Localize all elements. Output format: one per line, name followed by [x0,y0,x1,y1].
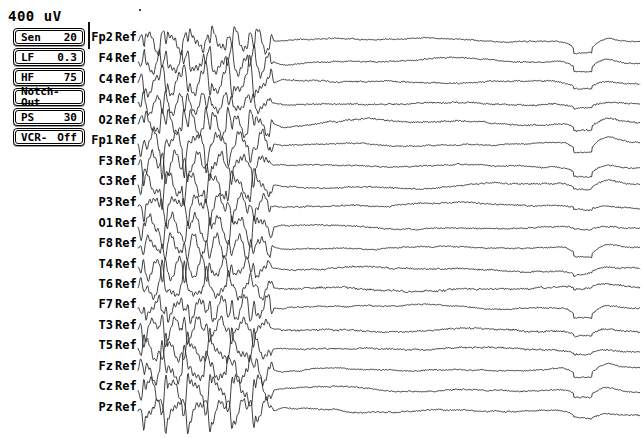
channel-reference-c3: Ref [113,174,137,188]
channel-label-p3[interactable]: P3Ref [88,195,140,209]
eeg-trace-t5-ref [138,328,640,364]
channel-label-t3[interactable]: T3Ref [88,318,140,332]
channel-site-o2: O2 [88,113,113,127]
channel-label-t6[interactable]: T6Ref [88,277,140,291]
channel-site-c3: C3 [88,174,113,188]
setting-value-vcr: Off [57,132,77,143]
eeg-trace-cz-ref [138,374,640,417]
setting-box-low-filter[interactable]: LF0.3 [13,48,85,66]
channel-site-f8: F8 [88,236,113,250]
channel-reference-t4: Ref [113,257,137,271]
settings-stack: Sen20LF0.3HF75Notch-OutPS30VCR-Off [13,28,85,148]
setting-box-high-filter[interactable]: HF75 [13,68,85,86]
channel-label-f3[interactable]: F3Ref [88,154,140,168]
setting-key-paper-speed: PS [21,112,34,123]
channel-site-t3: T3 [88,318,113,332]
channel-label-o2[interactable]: O2Ref [88,113,140,127]
channel-reference-f8: Ref [113,236,137,250]
channel-reference-f3: Ref [113,154,137,168]
channel-label-o1[interactable]: O1Ref [88,216,140,230]
eeg-trace-t6-ref [138,260,640,301]
channel-reference-f7: Ref [113,297,137,311]
channel-label-column: Fp2RefF4RefC4RefP4RefO2RefFp1RefF3RefC3R… [88,0,140,438]
channel-reference-cz: Ref [113,379,137,393]
eeg-trace-p3-ref [138,193,640,227]
setting-inner-low-filter: LF0.3 [15,50,83,64]
setting-value-paper-speed: 30 [64,112,77,123]
channel-label-fz[interactable]: FzRef [88,359,140,373]
eeg-trace-c4-ref [138,55,640,98]
channel-label-fp1[interactable]: Fp1Ref [88,133,140,147]
setting-key-vcr: VCR- [21,132,48,143]
channel-site-p3: P3 [88,195,113,209]
channel-site-fp2: Fp2 [88,30,113,44]
channel-reference-f4: Ref [113,51,137,65]
channel-label-t4[interactable]: T4Ref [88,257,140,271]
channel-reference-t3: Ref [113,318,137,332]
channel-reference-p4: Ref [113,92,137,106]
setting-box-vcr[interactable]: VCR-Off [13,128,85,146]
eeg-trace-o2-ref [138,107,640,138]
setting-inner-vcr: VCR-Off [15,130,83,144]
channel-label-f8[interactable]: F8Ref [88,236,140,250]
setting-value-low-filter: 0.3 [57,52,77,63]
eeg-trace-fz-ref [138,340,640,385]
channel-label-f4[interactable]: F4Ref [88,51,140,65]
eeg-display-screen: 400 uV Sen20LF0.3HF75Notch-OutPS30VCR-Of… [0,0,642,438]
eeg-trace-t3-ref [138,315,640,348]
setting-inner-notch-filter: Notch-Out [15,90,83,104]
channel-reference-o1: Ref [113,216,137,230]
scale-marker-label: 400 uV [8,8,62,24]
setting-label-notch-filter: Notch-Out [21,86,77,108]
setting-inner-paper-speed: PS30 [15,110,83,124]
eeg-trace-fp2-ref [138,26,640,56]
channel-reference-t6: Ref [113,277,137,291]
channel-site-pz: Pz [88,400,113,414]
channel-label-t5[interactable]: T5Ref [88,338,140,352]
setting-value-sensitivity: 20 [64,32,77,43]
channel-label-c4[interactable]: C4Ref [88,72,140,86]
eeg-trace-c3-ref [138,169,640,210]
setting-box-sensitivity[interactable]: Sen20 [13,28,85,46]
sensor-speck-artifact [139,9,141,11]
eeg-trace-f7-ref [138,294,640,323]
channel-label-c3[interactable]: C3Ref [88,174,140,188]
eeg-trace-fp1-ref [138,129,640,180]
channel-reference-t5: Ref [113,338,137,352]
channel-label-f7[interactable]: F7Ref [88,297,140,311]
eeg-trace-o1-ref [138,212,640,249]
setting-box-notch-filter[interactable]: Notch-Out [13,88,85,106]
channel-site-c4: C4 [88,72,113,86]
setting-key-sensitivity: Sen [21,32,41,43]
eeg-trace-pz-ref [138,397,640,434]
control-panel: 400 uV Sen20LF0.3HF75Notch-OutPS30VCR-Of… [0,0,88,160]
eeg-trace-p4-ref [138,91,640,116]
channel-reference-c4: Ref [113,72,137,86]
channel-site-t4: T4 [88,257,113,271]
setting-key-low-filter: LF [21,52,34,63]
channel-site-t5: T5 [88,338,113,352]
eeg-trace-f8-ref [138,233,640,260]
setting-inner-high-filter: HF75 [15,70,83,84]
channel-site-p4: P4 [88,92,113,106]
channel-label-pz[interactable]: PzRef [88,400,140,414]
channel-site-t6: T6 [88,277,113,291]
channel-site-cz: Cz [88,379,113,393]
setting-value-high-filter: 75 [64,72,77,83]
eeg-trace-f4-ref [138,45,640,79]
channel-site-f7: F7 [88,297,113,311]
channel-label-cz[interactable]: CzRef [88,379,140,393]
channel-site-f4: F4 [88,51,113,65]
channel-site-fz: Fz [88,359,113,373]
channel-label-fp2[interactable]: Fp2Ref [88,30,140,44]
setting-box-paper-speed[interactable]: PS30 [13,108,85,126]
channel-label-p4[interactable]: P4Ref [88,92,140,106]
channel-reference-fp2: Ref [113,30,137,44]
setting-key-high-filter: HF [21,72,34,83]
channel-reference-p3: Ref [113,195,137,209]
channel-reference-pz: Ref [113,400,137,414]
channel-reference-fz: Ref [113,359,137,373]
channel-reference-o2: Ref [113,113,137,127]
channel-site-f3: F3 [88,154,113,168]
eeg-trace-f3-ref [138,150,640,188]
